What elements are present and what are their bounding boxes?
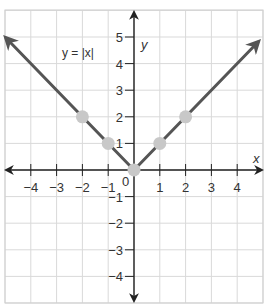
x-axis-label: x bbox=[252, 151, 260, 166]
axis-ticks: −4−3−2−1123454321−1−2−3−4 bbox=[23, 30, 240, 284]
y-tick-label: 3 bbox=[116, 83, 123, 98]
x-tick-label: 3 bbox=[208, 180, 215, 195]
y-tick-label: 2 bbox=[116, 110, 123, 125]
equation-label: y = |x| bbox=[62, 46, 94, 60]
axes bbox=[6, 12, 262, 301]
origin-label: 0 bbox=[122, 174, 129, 189]
y-tick-label: 5 bbox=[116, 30, 123, 45]
data-point bbox=[153, 137, 166, 150]
y-tick-label: −4 bbox=[108, 269, 123, 284]
x-tick-label: 1 bbox=[156, 180, 163, 195]
data-point bbox=[102, 137, 115, 150]
y-tick-label: −1 bbox=[108, 190, 123, 205]
y-axis-label: y bbox=[140, 37, 149, 52]
y-tick-label: 4 bbox=[116, 57, 123, 72]
line-right-arm bbox=[134, 42, 258, 170]
x-tick-label: 4 bbox=[234, 180, 241, 195]
y-tick-label: 1 bbox=[116, 136, 123, 151]
data-point bbox=[128, 164, 141, 177]
x-tick-label: −3 bbox=[49, 180, 64, 195]
x-tick-label: −2 bbox=[75, 180, 90, 195]
absolute-value-graph: −4−3−2−1123454321−1−2−3−4 y = |x| x y 0 bbox=[0, 0, 266, 307]
y-tick-label: −3 bbox=[108, 243, 123, 258]
function-line bbox=[6, 38, 258, 170]
data-point bbox=[76, 110, 89, 123]
x-tick-label: 2 bbox=[182, 180, 189, 195]
y-tick-label: −2 bbox=[108, 216, 123, 231]
data-point bbox=[179, 110, 192, 123]
x-tick-label: −4 bbox=[23, 180, 38, 195]
